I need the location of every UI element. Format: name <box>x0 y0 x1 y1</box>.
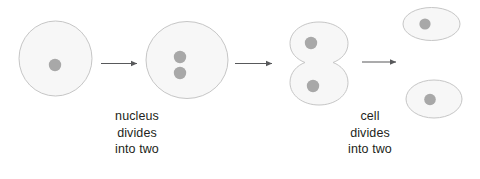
caption-cell-divides: cell divides into two <box>310 108 430 158</box>
nucleus <box>419 18 430 29</box>
stage-daughter-cell-top <box>403 8 460 41</box>
cell-membrane-pinched <box>290 22 348 105</box>
caption-line: cell <box>310 108 430 125</box>
caption-nucleus-divides: nucleus divides into two <box>77 108 197 158</box>
nucleus <box>49 59 61 71</box>
cell-membrane <box>146 22 228 99</box>
caption-line: nucleus <box>77 108 197 125</box>
caption-line: divides <box>77 125 197 142</box>
nucleus <box>424 94 436 106</box>
stage-two-nuclei-cell <box>146 22 228 99</box>
cell-membrane <box>403 8 460 41</box>
nucleus-upper <box>305 37 317 49</box>
caption-line: divides <box>310 125 430 142</box>
caption-line: into two <box>310 141 430 158</box>
stage-parent-cell <box>19 21 92 96</box>
nucleus-lower <box>174 67 186 79</box>
cell-division-diagram: nucleus divides into two cell divides in… <box>0 0 480 179</box>
nucleus-lower <box>307 80 319 92</box>
caption-line: into two <box>77 141 197 158</box>
cell-membrane <box>19 21 92 96</box>
nucleus-upper <box>174 51 186 63</box>
stage-dividing-cell <box>290 22 348 105</box>
